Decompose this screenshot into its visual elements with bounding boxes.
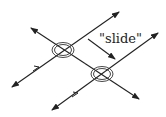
slide-label: "slide" (99, 31, 142, 46)
diagram-svg (0, 0, 166, 117)
intersection-circle-1 (52, 43, 74, 58)
diagram-canvas: "slide" (0, 0, 166, 117)
